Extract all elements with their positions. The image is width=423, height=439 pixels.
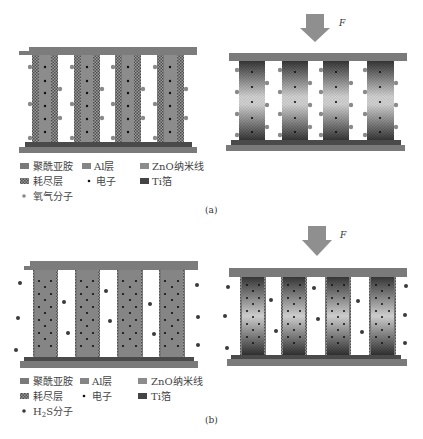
- device-b-unstrained: [14, 261, 200, 368]
- legend-electron: 电子: [92, 390, 112, 402]
- electrons: [246, 284, 390, 344]
- oxygen-icon: [22, 194, 26, 198]
- depletion-swatch: [20, 178, 29, 184]
- electrons: [44, 66, 171, 133]
- polyimide-bottom: [226, 145, 405, 151]
- ti-swatch: [140, 178, 149, 184]
- panel-b: F: [14, 226, 408, 425]
- zno-swatch: [140, 163, 149, 169]
- legend-depletion: 耗尽层: [33, 176, 63, 187]
- legend-al-layer: Al层: [93, 161, 114, 172]
- legend-ti: Ti箔: [152, 175, 172, 187]
- legend-a: 聚酰亚胺 Al层 ZnO纳米线 耗尽层 电子 Ti箔 氧气分子: [20, 160, 204, 202]
- legend-zno: ZnO纳米线: [152, 160, 204, 172]
- legend-depletion: 耗尽层: [33, 391, 63, 402]
- polyimide-swatch: [20, 378, 29, 384]
- al-layer-swatch: [82, 163, 91, 169]
- al-layer-swatch: [80, 378, 89, 384]
- legend-zno: ZnO纳米线: [151, 375, 203, 387]
- legend-h2s: H2S分子: [33, 406, 73, 419]
- electrons: [38, 280, 179, 347]
- figure-canvas: F: [0, 0, 423, 439]
- h2s-icon: [22, 409, 26, 413]
- force-label: F: [339, 230, 347, 240]
- ti-foil-bottom: [231, 140, 401, 145]
- polyimide-bottom: [227, 359, 407, 366]
- force-arrow: [300, 14, 330, 42]
- legend-polyimide: 聚酰亚胺: [33, 375, 73, 387]
- device-a-unstrained: [19, 47, 197, 153]
- ti-foil-bottom: [25, 142, 192, 147]
- al-layer-top: [30, 261, 198, 270]
- electron-icon: [83, 395, 86, 398]
- ti-swatch: [138, 393, 147, 399]
- ti-foil-bottom: [231, 355, 401, 359]
- ti-foil-bottom: [24, 357, 194, 361]
- legend-polyimide: 聚酰亚胺: [33, 160, 73, 172]
- polyimide-bottom: [19, 147, 197, 153]
- device-a-compressed: F: [226, 14, 407, 151]
- legend-electron: 电子: [96, 175, 116, 187]
- legend-al-layer: Al层: [91, 376, 112, 387]
- electron-icon: [88, 180, 91, 183]
- force-arrow: [302, 226, 332, 256]
- legend-oxygen: 氧气分子: [33, 190, 73, 202]
- zno-swatch: [138, 378, 147, 384]
- caption-a: (a): [205, 205, 217, 215]
- device-b-compressed: F: [223, 226, 408, 366]
- polyimide-bottom: [20, 361, 198, 368]
- electrons: [251, 71, 381, 133]
- force-label: F: [338, 18, 346, 28]
- polyimide-top: [229, 53, 407, 61]
- legend-ti: Ti箔: [151, 390, 171, 402]
- legend-b: 聚酰亚胺 Al层 ZnO纳米线 耗尽层 电子 Ti箔 H2S分子: [20, 375, 203, 419]
- polyimide-swatch: [20, 163, 29, 169]
- caption-b: (b): [205, 415, 218, 425]
- panel-a: F: [19, 14, 407, 215]
- polyimide-top: [229, 268, 407, 277]
- depletion-swatch: [20, 393, 29, 399]
- al-layer-top: [29, 47, 197, 55]
